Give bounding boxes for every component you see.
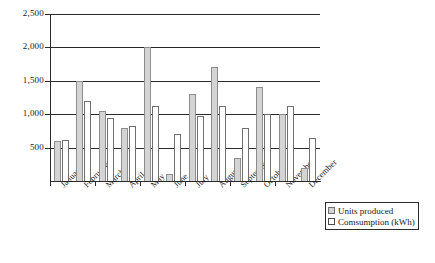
bar-group-august <box>208 14 231 181</box>
bar-december-units-produced[interactable] <box>301 168 308 181</box>
bar-january-consumption[interactable] <box>62 140 69 181</box>
plot-area <box>50 14 320 181</box>
y-tick-label-2000: 2,000 <box>23 42 44 51</box>
bar-may-units-produced[interactable] <box>144 47 151 181</box>
y-tick-label-500: 500 <box>30 143 44 152</box>
bar-december-consumption[interactable] <box>309 138 316 181</box>
legend-item-units-produced[interactable]: Units produced <box>328 205 415 216</box>
bar-june-units-produced[interactable] <box>166 174 173 181</box>
legend-label-consumption: Comsumption (kWh) <box>338 217 415 227</box>
bar-group-september <box>230 14 253 181</box>
legend-label-units-produced: Units produced <box>338 206 393 216</box>
y-tick-label-2500: 2,500 <box>23 9 44 18</box>
bar-group-april <box>118 14 141 181</box>
y-tick-label-1500: 1,500 <box>23 76 44 85</box>
y-axis-labels: 5001,0001,5002,0002,500 <box>0 0 44 200</box>
legend-item-consumption[interactable]: Comsumption (kWh) <box>328 216 415 227</box>
bar-april-units-produced[interactable] <box>121 128 128 181</box>
bar-september-units-produced[interactable] <box>234 158 241 181</box>
bar-group-november <box>275 14 298 181</box>
bar-february-consumption[interactable] <box>84 101 91 181</box>
bar-group-october <box>253 14 276 181</box>
y-tick-label-1000: 1,000 <box>23 109 44 118</box>
bar-group-february <box>73 14 96 181</box>
bar-july-units-produced[interactable] <box>189 94 196 181</box>
bar-june-consumption[interactable] <box>174 134 181 181</box>
bar-may-consumption[interactable] <box>152 106 159 181</box>
consumption-swatch-icon <box>328 218 335 225</box>
bar-september-consumption[interactable] <box>242 128 249 181</box>
bar-group-june <box>163 14 186 181</box>
bar-january-units-produced[interactable] <box>54 141 61 181</box>
bar-chart: 5001,0001,5002,0002,500 JanuaryFebruaryM… <box>0 0 435 263</box>
bar-november-units-produced[interactable] <box>279 114 286 181</box>
bar-group-january <box>50 14 73 181</box>
x-axis-labels: JanuaryFebruaryMarchAprilMayJuneJulyAugu… <box>50 183 340 245</box>
bar-august-consumption[interactable] <box>219 106 226 181</box>
bar-february-units-produced[interactable] <box>76 81 83 181</box>
bar-march-units-produced[interactable] <box>99 111 106 181</box>
bar-october-units-produced[interactable] <box>256 87 263 181</box>
bar-april-consumption[interactable] <box>129 126 136 181</box>
bar-group-december <box>298 14 321 181</box>
bar-group-july <box>185 14 208 181</box>
bar-march-consumption[interactable] <box>107 118 114 181</box>
bar-august-units-produced[interactable] <box>211 67 218 181</box>
bar-november-consumption[interactable] <box>287 106 294 181</box>
chart-legend: Units produced Comsumption (kWh) <box>325 202 419 230</box>
produced-swatch-icon <box>328 207 335 214</box>
bar-group-may <box>140 14 163 181</box>
bar-october-consumption[interactable] <box>264 114 271 181</box>
bar-july-consumption[interactable] <box>197 116 204 181</box>
bar-group-march <box>95 14 118 181</box>
